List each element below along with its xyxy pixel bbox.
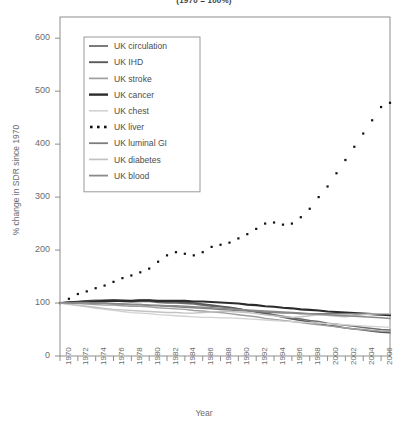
x-tick-label: 1970 bbox=[64, 347, 73, 365]
x-tick-label: 1998 bbox=[313, 347, 322, 365]
data-point bbox=[371, 119, 373, 121]
legend-label: UK diabetes bbox=[114, 155, 161, 165]
x-tick-label: 1974 bbox=[99, 347, 108, 365]
legend: UK circulationUK IHDUK strokeUK cancerUK… bbox=[84, 37, 200, 192]
x-tick-label: 1978 bbox=[135, 347, 144, 365]
data-point bbox=[273, 221, 275, 223]
data-point bbox=[139, 271, 141, 273]
data-point bbox=[255, 228, 257, 230]
data-point bbox=[148, 268, 150, 270]
data-point bbox=[95, 287, 97, 289]
data-point bbox=[353, 146, 355, 148]
legend-swatch bbox=[104, 126, 107, 129]
x-tick-label: 2002 bbox=[349, 347, 358, 365]
data-point bbox=[202, 251, 204, 253]
x-tick-label: 2006 bbox=[385, 347, 394, 365]
legend-label: UK stroke bbox=[114, 74, 152, 84]
x-tick-label: 1982 bbox=[171, 347, 180, 365]
data-point bbox=[175, 251, 177, 253]
data-point bbox=[335, 172, 337, 174]
x-tick-label: 1986 bbox=[206, 347, 215, 365]
data-point bbox=[68, 298, 70, 300]
chart-figure: (1970 = 100%) % change in SDR since 1970… bbox=[0, 0, 408, 430]
y-tick-label: 100 bbox=[16, 297, 50, 307]
x-tick-label: 1990 bbox=[242, 347, 251, 365]
x-tick-label: 1992 bbox=[260, 347, 269, 365]
data-point bbox=[130, 274, 132, 276]
data-point bbox=[112, 281, 114, 283]
y-tick-label: 500 bbox=[16, 85, 50, 95]
x-tick-label: 1994 bbox=[278, 347, 287, 365]
data-point bbox=[166, 254, 168, 256]
data-point bbox=[300, 216, 302, 218]
legend-label: UK chest bbox=[114, 106, 149, 116]
x-tick-label: 1984 bbox=[188, 347, 197, 365]
x-axis-label: Year bbox=[0, 408, 408, 418]
legend-label: UK liver bbox=[114, 122, 144, 132]
x-tick-label: 1996 bbox=[295, 347, 304, 365]
legend-label: UK cancer bbox=[114, 90, 154, 100]
data-point bbox=[362, 132, 364, 134]
data-point bbox=[157, 261, 159, 263]
x-tick-label: 2004 bbox=[367, 347, 376, 365]
legend-label: UK circulation bbox=[114, 41, 167, 51]
data-point bbox=[184, 253, 186, 255]
y-tick-label: 200 bbox=[16, 244, 50, 254]
x-tick-label: 1976 bbox=[117, 347, 126, 365]
data-point bbox=[389, 102, 391, 104]
data-point bbox=[77, 293, 79, 295]
x-tick-label: 1972 bbox=[81, 347, 90, 365]
data-point bbox=[246, 233, 248, 235]
data-point bbox=[309, 208, 311, 210]
data-point bbox=[219, 244, 221, 246]
legend-swatch bbox=[97, 126, 100, 129]
chart-title: (1970 = 100%) bbox=[0, 0, 408, 5]
data-point bbox=[282, 224, 284, 226]
x-tick-label: 1980 bbox=[153, 347, 162, 365]
legend-swatch bbox=[90, 126, 93, 129]
data-point bbox=[264, 222, 266, 224]
data-point bbox=[211, 246, 213, 248]
legend-label: UK IHD bbox=[114, 57, 143, 67]
y-tick-label: 400 bbox=[16, 138, 50, 148]
data-point bbox=[103, 284, 105, 286]
data-point bbox=[318, 196, 320, 198]
data-point bbox=[344, 159, 346, 161]
x-tick-label: 1988 bbox=[224, 347, 233, 365]
y-tick-label: 600 bbox=[16, 32, 50, 42]
data-point bbox=[291, 222, 293, 224]
data-point bbox=[326, 185, 328, 187]
x-tick-label: 2000 bbox=[331, 347, 340, 365]
y-tick-label: 0 bbox=[16, 350, 50, 360]
data-point bbox=[86, 290, 88, 292]
legend-label: UK blood bbox=[114, 171, 150, 181]
data-point bbox=[237, 237, 239, 239]
y-tick-label: 300 bbox=[16, 191, 50, 201]
plot-canvas: UK circulationUK IHDUK strokeUK cancerUK… bbox=[0, 0, 408, 430]
data-point bbox=[380, 106, 382, 108]
data-point bbox=[121, 277, 123, 279]
data-point bbox=[228, 242, 230, 244]
legend-label: UK luminal GI bbox=[114, 138, 167, 148]
data-point bbox=[193, 254, 195, 256]
